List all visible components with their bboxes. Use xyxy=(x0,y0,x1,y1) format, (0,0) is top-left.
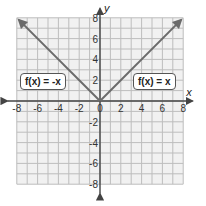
x-tick-label: 4 xyxy=(139,103,145,114)
x-tick-label: 2 xyxy=(118,103,124,114)
y-tick-label: 6 xyxy=(92,34,98,45)
x-tick-label: -8 xyxy=(12,103,21,114)
x-tick-label: -2 xyxy=(75,103,84,114)
x-tick-label: -4 xyxy=(54,103,63,114)
x-axis-label: x xyxy=(185,86,192,98)
y-tick-label: 8 xyxy=(92,13,98,24)
y-tick-label: -8 xyxy=(89,179,98,190)
x-tick-label: -6 xyxy=(33,103,42,114)
y-tick-label: 2 xyxy=(92,75,98,86)
y-tick-label: -6 xyxy=(89,158,98,169)
x-tick-label: 6 xyxy=(160,103,166,114)
label-left-function-text: f(x) = -x xyxy=(25,76,61,87)
label-right-function-text: f(x) = x xyxy=(138,76,171,87)
y-tick-label: -4 xyxy=(89,138,98,149)
x-tick-label: 0 xyxy=(97,103,103,114)
y-tick-label: -2 xyxy=(89,117,98,128)
label-right-function: f(x) = x xyxy=(133,73,176,90)
y-axis-label: y xyxy=(103,2,111,14)
label-left-function: f(x) = -x xyxy=(20,73,66,90)
y-tick-label: 4 xyxy=(92,54,98,65)
coordinate-graph: -8-6-4-202468-8-6-4-22468xy xyxy=(0,0,206,206)
x-tick-label: 8 xyxy=(180,103,186,114)
